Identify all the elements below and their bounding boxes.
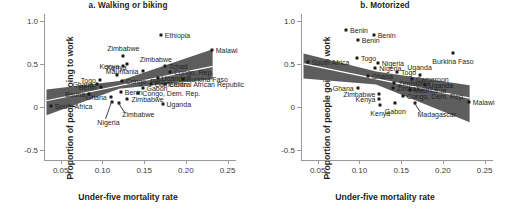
x-tick-b-2 [401,160,402,164]
point-label: Bsuna [65,90,85,97]
point-label: Togo [361,54,376,61]
x-tick-label-b-0: 0.05 [310,166,326,175]
x-tick-label-a-0: 0.05 [53,166,69,175]
data-point [109,96,112,99]
point-label: Malawi [473,99,495,106]
data-point [120,79,123,82]
x-tick-label-b-4: 0.25 [477,166,493,175]
point-label: Zimbabwe [122,110,154,117]
data-point [378,98,381,101]
point-label: Benin [350,27,368,34]
point-label: Zimbabwe [140,55,172,62]
x-tick-label-a-1: 0.10 [95,166,111,175]
y-tick-label-a-3: -0.5 [24,145,38,154]
x-tick-label-b-1: 0.10 [352,166,368,175]
y-tick-label-a-2: 0 [34,102,38,111]
point-label: Uganda [167,101,192,108]
data-point [345,29,348,32]
data-point [356,38,359,41]
data-point [401,95,404,98]
x-tick-a-2 [144,160,145,164]
data-point [126,97,129,100]
panel-a-x-axis-line [44,160,236,161]
x-tick-label-a-3: 0.20 [178,166,194,175]
point-label: Benin [362,36,380,43]
point-label: Kenya [107,63,127,70]
data-point [467,101,470,104]
y-tick-label-a-1: 0.5 [27,59,38,68]
x-tick-a-1 [102,160,103,164]
data-point [306,61,309,64]
figure-container: a. Walking or biking Proportion of peopl… [0,0,513,216]
x-tick-a-3 [186,160,187,164]
panel-b-plot-area: 1.00.50-0.50.050.100.150.200.25BeninBeni… [301,14,493,160]
data-point [159,34,162,37]
point-label: Nigeria [97,118,119,125]
data-point [366,74,369,77]
point-label: Ghana [372,72,393,79]
data-point [396,70,399,73]
data-point [119,91,122,94]
data-point [99,86,102,89]
data-point [122,55,125,58]
data-point [355,56,358,59]
point-label: Malawi [216,47,238,54]
panel-b-x-axis-line [301,160,493,161]
x-tick-a-0 [61,160,62,164]
panel-b-x-axis-title: Under-five mortality rate [257,192,513,202]
point-label: Uganda [407,64,432,71]
x-tick-label-a-4: 0.25 [220,166,236,175]
y-tick-label-b-1: 0.5 [284,59,295,68]
point-label: Ghana [86,94,107,101]
point-label: Burkina Faso [432,58,473,65]
panel-a-plot-area: 1.00.50-0.50.050.100.150.200.25EthiopiaM… [44,14,236,160]
point-label: Benin [378,31,396,38]
data-point [451,52,454,55]
x-tick-b-4 [485,160,486,164]
point-label: South Africa [312,59,350,66]
point-label: Ethiopia [165,32,190,39]
x-tick-label-b-3: 0.20 [435,166,451,175]
x-tick-label-a-2: 0.15 [136,166,152,175]
data-point [49,105,52,108]
data-point [164,64,167,67]
data-point [394,102,397,105]
data-point [98,79,101,82]
data-point [210,49,213,52]
x-tick-a-4 [228,160,229,164]
data-point [393,82,396,85]
point-label: Gabon [385,108,406,115]
data-point [169,71,172,74]
point-label: Central African Republic [169,81,244,88]
point-label: Madagascar [418,111,457,118]
x-tick-b-1 [359,160,360,164]
data-point [141,69,144,72]
panel-walking-or-biking: a. Walking or biking Proportion of peopl… [0,0,256,216]
data-point [137,92,140,95]
data-point [379,104,382,107]
y-tick-label-b-3: -0.5 [281,145,295,154]
point-label: Zimbabwe [107,45,139,52]
data-point [378,92,381,95]
point-label: South Africa [55,103,93,110]
y-tick-label-b-0: 1.0 [284,16,295,25]
data-point [115,73,118,76]
point-label: Kenya [356,96,376,103]
y-tick-label-a-0: 1.0 [27,16,38,25]
point-label: Congo, Dem. Rep. [407,93,465,100]
data-point [391,87,394,90]
panel-a-x-axis-title: Under-five mortality rate [0,192,256,202]
data-point [161,103,164,106]
panel-motorized: b. Motorized Proportion of people going … [257,0,513,216]
data-point [408,89,411,92]
y-tick-label-b-2: 0 [291,102,295,111]
point-label: Zimbabwe [131,95,163,102]
x-tick-b-3 [443,160,444,164]
data-point [374,66,377,69]
data-point [356,87,359,90]
x-tick-b-0 [318,160,319,164]
x-tick-label-b-2: 0.15 [393,166,409,175]
